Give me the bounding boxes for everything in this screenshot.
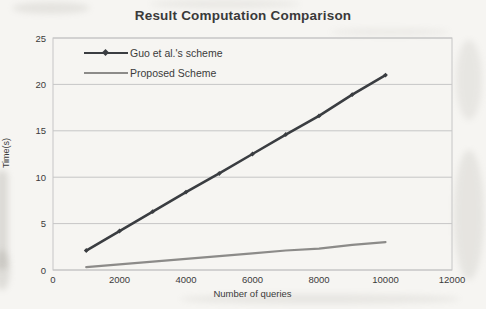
y-tick-label-10: 10 bbox=[35, 172, 46, 183]
x-tick-label-0: 0 bbox=[50, 274, 55, 285]
y-tick-label-5: 5 bbox=[41, 218, 46, 229]
legend-item-guo-scheme: Guo et al.'s scheme bbox=[84, 46, 222, 60]
legend-label-proposed: Proposed Scheme bbox=[130, 67, 216, 79]
legend-line-swatch-guo bbox=[84, 52, 128, 54]
plot-area: 0510152025020004000600080001000012000 bbox=[0, 0, 486, 309]
x-tick-label-6000: 6000 bbox=[242, 274, 263, 285]
y-tick-label-25: 25 bbox=[35, 33, 46, 44]
series-line-guo bbox=[86, 75, 385, 250]
y-tick-label-20: 20 bbox=[35, 79, 46, 90]
x-tick-label-12000: 12000 bbox=[439, 274, 465, 285]
legend-marker-icon bbox=[102, 49, 109, 56]
legend-label-guo: Guo et al.'s scheme bbox=[130, 47, 222, 59]
legend-line-swatch-proposed bbox=[84, 72, 128, 74]
legend: Guo et al.'s scheme Proposed Scheme bbox=[84, 46, 222, 86]
y-axis-label: Time(s) bbox=[1, 123, 11, 183]
scanned-figure-page: Result Computation Comparison 0510152025… bbox=[0, 0, 486, 309]
legend-item-proposed-scheme: Proposed Scheme bbox=[84, 66, 222, 80]
x-tick-label-10000: 10000 bbox=[372, 274, 398, 285]
y-tick-label-0: 0 bbox=[41, 265, 46, 276]
x-tick-label-4000: 4000 bbox=[175, 274, 196, 285]
series-line-proposed bbox=[86, 242, 385, 267]
x-tick-label-2000: 2000 bbox=[109, 274, 130, 285]
x-tick-label-8000: 8000 bbox=[308, 274, 329, 285]
y-tick-label-15: 15 bbox=[35, 125, 46, 136]
x-axis-label: Number of queries bbox=[53, 288, 452, 299]
